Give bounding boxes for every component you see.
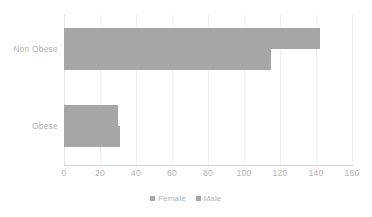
x-axis-line [64,165,353,166]
y-axis-labels: Non ObeseObese [0,0,58,217]
bar-female-obese [64,105,118,126]
x-tick-label-60: 60 [167,168,177,178]
legend-label: Male [203,194,221,203]
bar-male-non-obese [64,49,271,70]
bar-chart: Non ObeseObese 020406080100120140160 Fem… [0,0,372,217]
x-tick-label-140: 140 [309,168,324,178]
x-tick-label-160: 160 [345,168,360,178]
legend-swatch-icon [150,196,155,201]
bar-female-non-obese [64,28,320,49]
legend-label: Female [158,194,186,203]
bar-group-obese [64,105,352,147]
gridline [352,14,353,165]
legend-item-female[interactable]: Female [150,194,185,203]
x-tick-label-100: 100 [237,168,252,178]
x-tick-label-0: 0 [62,168,67,178]
x-tick-label-80: 80 [203,168,213,178]
legend-item-male[interactable]: Male [196,194,222,203]
x-tick-label-20: 20 [95,168,105,178]
y-axis-label-non-obese: Non Obese [0,44,58,54]
chart-legend: FemaleMale [0,194,372,203]
legend-swatch-icon [196,196,201,201]
x-tick-label-40: 40 [131,168,141,178]
x-tick-label-120: 120 [273,168,288,178]
x-axis-tick-labels: 020406080100120140160 [64,168,352,182]
bar-male-obese [64,126,120,147]
bar-group-non-obese [64,28,352,70]
y-axis-label-obese: Obese [0,121,58,131]
plot-area [64,14,352,165]
